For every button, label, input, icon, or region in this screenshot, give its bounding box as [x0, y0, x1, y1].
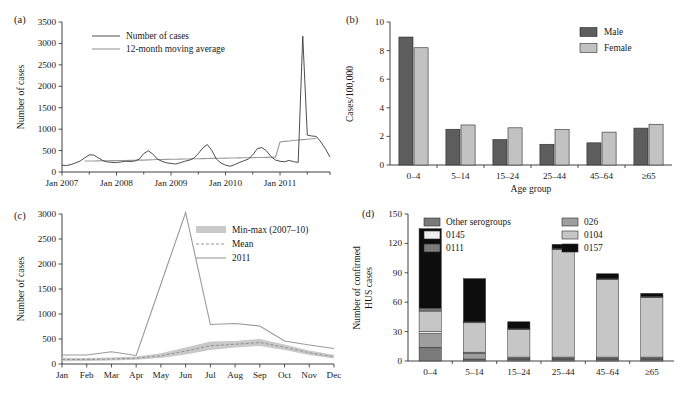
panel-b-bars	[399, 37, 663, 165]
panel-d-bar-segment	[641, 359, 663, 361]
panel-b-yaxis: 0246810	[375, 17, 390, 170]
panel-c-xtick: Oct	[278, 370, 292, 380]
panel-b-xtick: 5–14	[451, 171, 470, 181]
panel-c-xtick: Jun	[179, 370, 192, 380]
panel-d-bar-segment	[596, 359, 618, 361]
panel-b-ytick: 0	[379, 160, 384, 170]
panel-c-tag: (c)	[14, 210, 26, 221]
panel-d-ytick: 150	[388, 209, 402, 219]
panel-d-ylabel-line2: HUS cases	[363, 267, 374, 309]
panel-d-tag: (d)	[362, 208, 374, 219]
panel-a-xaxis: Jan 2007Jan 2008Jan 2009Jan 2010Jan 2011	[46, 172, 330, 188]
panel-d-ytick: 0	[397, 356, 402, 366]
panel-d-bar-segment	[419, 311, 441, 332]
panel-b-bar-male	[634, 128, 648, 165]
panel-b-legend-label: Female	[604, 43, 632, 53]
panel-d-xaxis: 0–45–1415–2425–4445–64≥65	[408, 361, 674, 377]
panel-c-seasonal-cases: (c) 050010001500200025003000 JanFebMarAp…	[0, 198, 340, 396]
panel-c-ytick: 1500	[38, 284, 57, 294]
panel-a-plot-lines	[62, 36, 330, 166]
panel-c-legend-label: 2011	[232, 253, 251, 263]
panel-a-svg: 0500100015002000250030003500 Jan 2007Jan…	[0, 0, 340, 198]
panel-c-xtick: Feb	[80, 370, 94, 380]
panel-b-ytick: 10	[375, 17, 385, 27]
panel-d-bar-segment	[419, 229, 441, 308]
panel-b-ytick: 4	[379, 103, 384, 113]
panel-d-xtick: ≥65	[645, 367, 660, 377]
panel-a-ytick: 500	[42, 146, 56, 156]
panel-a-legend-label: 12-month moving average	[126, 44, 225, 54]
panel-d-bar-segment	[508, 359, 530, 361]
panel-d-bar-segment	[463, 353, 485, 359]
panel-d-ytick: 30	[393, 327, 403, 337]
panel-a-xtick: Jan 2009	[155, 178, 188, 188]
panel-d-bar-segment	[419, 334, 441, 348]
panel-c-legend: Min-max (2007–10)Mean2011	[196, 225, 308, 263]
panel-c-ytick: 2500	[38, 234, 57, 244]
panel-b-xtick: 0–4	[407, 171, 421, 181]
panel-a-ytick: 2000	[38, 81, 57, 91]
panel-d-legend-swatch	[562, 244, 578, 252]
panel-d-legend-swatch	[424, 218, 440, 226]
panel-a-ytick: 3500	[38, 17, 57, 27]
panel-b-bar-male	[587, 143, 601, 165]
panel-a-xtick: Jan 2010	[209, 178, 242, 188]
panel-b-xtick: ≥65	[641, 171, 656, 181]
panel-d-bar-segment	[552, 359, 574, 361]
panel-b-bar-male	[399, 37, 413, 165]
panel-d-legend-swatch	[562, 231, 578, 239]
panel-b-ytick: 8	[379, 46, 384, 56]
panel-d-legend-swatch	[424, 244, 440, 252]
panel-d-hus-serogroups: (d) 0306090120150 0–45–1415–2425–4445–64…	[340, 198, 680, 396]
panel-c-xtick: Aug	[227, 370, 243, 380]
panel-d-svg: 0306090120150 0–45–1415–2425–4445–64≥65 …	[340, 198, 680, 396]
panel-b-legend: MaleFemale	[580, 27, 632, 53]
panel-b-xlabel: Age group	[511, 183, 552, 194]
panel-b-svg: 0246810 0–45–1415–2425–4445–64≥65 Cases/…	[340, 0, 680, 198]
panel-c-xtick: May	[152, 370, 169, 380]
panel-a-legend-label: Number of cases	[126, 31, 189, 41]
panel-d-legend-swatch	[562, 218, 578, 226]
panel-a-yaxis: 0500100015002000250030003500	[38, 17, 62, 177]
panel-b-ylabel: Cases/100,000	[344, 66, 355, 122]
panel-a-line-moving-average	[85, 139, 317, 162]
panel-b-bar-female	[461, 125, 475, 165]
panel-c-legend-label: Min-max (2007–10)	[232, 225, 308, 236]
panel-d-ytick: 90	[393, 268, 403, 278]
panel-d-bar-segment	[641, 297, 663, 357]
panel-a-monthly-cases: (a) 0500100015002000250030003500 Jan 200…	[0, 0, 340, 198]
panel-b-bar-female	[414, 48, 428, 165]
panel-a-line-cases	[62, 36, 330, 166]
panel-d-bar-segment	[419, 308, 441, 311]
panel-b-bar-male	[540, 144, 554, 165]
panel-c-ylabel: Number of cases	[15, 257, 26, 322]
panel-d-bar-segment	[419, 332, 441, 334]
panel-b-ytick: 2	[379, 131, 384, 141]
panel-c-legend-swatch	[196, 226, 226, 233]
panel-d-xtick: 45–64	[596, 367, 619, 377]
panel-c-legend-label: Mean	[232, 239, 254, 249]
panel-a-xtick: Jan 2011	[264, 178, 297, 188]
panel-b-xaxis: 0–45–1415–2425–4445–64≥65	[390, 165, 672, 181]
panel-d-yaxis: 0306090120150	[388, 209, 408, 366]
panel-a-ytick: 3000	[38, 38, 57, 48]
panel-d-bar-segment	[508, 322, 530, 329]
panel-b-bar-female	[602, 132, 616, 165]
panel-d-bar-segment	[463, 279, 485, 322]
panel-b-bar-female	[508, 128, 522, 165]
panel-b-sex-age-incidence: (b) 0246810 0–45–1415–2425–4445–64≥65 Ca…	[340, 0, 680, 198]
panel-d-legend-label: 0104	[584, 230, 603, 240]
panel-d-xtick: 15–24	[507, 367, 530, 377]
panel-a-tag: (a)	[14, 14, 26, 25]
panel-c-ytick: 0	[51, 359, 56, 369]
panel-d-ytick: 60	[393, 297, 403, 307]
panel-d-ytick: 120	[388, 238, 402, 248]
panel-a-legend: Number of cases12-month moving average	[92, 31, 225, 54]
panel-c-xtick: Jan	[56, 370, 69, 380]
panel-c-xtick: Nov	[301, 370, 317, 380]
panel-c-svg: 050010001500200025003000 JanFebMarAprMay…	[0, 198, 340, 396]
panel-b-bar-male	[446, 129, 460, 165]
panel-a-xtick: Jan 2008	[100, 178, 133, 188]
panel-a-ytick: 1500	[38, 103, 57, 113]
panel-d-xtick: 0–4	[423, 367, 437, 377]
